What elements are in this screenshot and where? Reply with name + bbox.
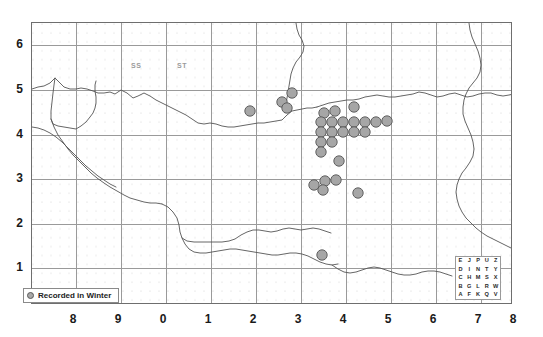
data-point [282, 103, 292, 113]
x-axis-tick-3: 1 [200, 313, 216, 325]
grid-letter: F [465, 291, 474, 299]
grid-letter: J [465, 257, 474, 265]
data-point [316, 117, 326, 127]
data-point [334, 156, 344, 166]
data-point [316, 127, 326, 137]
grid-letter: N [474, 265, 483, 273]
map-plot-area [31, 22, 512, 304]
x-axis-tick-0: 8 [65, 313, 81, 325]
x-axis-tick-10: 8 [505, 313, 521, 325]
x-axis-tick-9: 7 [470, 313, 486, 325]
grid-letter: B [456, 282, 465, 290]
x-axis-tick-5: 3 [290, 313, 306, 325]
grid-letter: H [465, 274, 474, 282]
sheet-label-st: ST [177, 62, 187, 69]
grid-letter: D [456, 265, 465, 273]
y-axis-tick-6: 6 [7, 38, 23, 50]
x-axis-tick-8: 6 [425, 313, 441, 325]
grid-letter: R [482, 282, 491, 290]
data-point [353, 188, 363, 198]
sheet-label-ss: SS [131, 62, 141, 69]
data-point [349, 102, 359, 112]
x-axis-tick-1: 9 [110, 313, 126, 325]
legend-label: Recorded in Winter [38, 291, 111, 300]
data-point [360, 127, 370, 137]
data-point [327, 117, 337, 127]
data-point [371, 117, 381, 127]
y-axis-tick-1: 1 [7, 261, 23, 273]
grid-letter: K [474, 291, 483, 299]
grid-letter-key: E J P U Z D I N T Y C H M S X B G L R W … [455, 256, 501, 300]
grid-letter: W [491, 282, 500, 290]
data-point [330, 106, 340, 116]
grid-letter: X [491, 274, 500, 282]
x-axis-tick-2: 0 [155, 313, 171, 325]
grid-letter: I [465, 265, 474, 273]
data-point [287, 88, 297, 98]
data-point [317, 250, 327, 260]
y-axis-tick-4: 4 [7, 128, 23, 140]
data-point [318, 185, 328, 195]
y-axis-tick-5: 5 [7, 83, 23, 95]
grid-letter: Q [482, 291, 491, 299]
y-axis-tick-3: 3 [7, 172, 23, 184]
grid-letter: A [456, 291, 465, 299]
data-point [316, 147, 326, 157]
data-point [349, 117, 359, 127]
grid-letter: L [474, 282, 483, 290]
grid-letter: V [491, 291, 500, 299]
y-axis-tick-2: 2 [7, 217, 23, 229]
data-point [245, 106, 255, 116]
data-point [331, 175, 341, 185]
data-point [338, 117, 348, 127]
map-legend: Recorded in Winter [23, 288, 119, 303]
grid-letter: G [465, 282, 474, 290]
x-axis-tick-7: 5 [380, 313, 396, 325]
legend-swatch-icon [27, 292, 34, 299]
data-point [349, 127, 359, 137]
data-point [360, 117, 370, 127]
grid-letter: Z [491, 257, 500, 265]
data-point [316, 137, 326, 147]
grid-letter: S [482, 274, 491, 282]
data-point [327, 137, 337, 147]
data-point [338, 127, 348, 137]
data-point [327, 127, 337, 137]
x-axis-tick-6: 4 [335, 313, 351, 325]
x-axis-tick-4: 2 [245, 313, 261, 325]
grid-letter: M [474, 274, 483, 282]
minor-dot-grid [32, 23, 512, 304]
distribution-map-figure: 6 5 4 3 2 1 8 9 0 1 2 3 4 5 6 7 8 [0, 0, 543, 337]
data-point [382, 116, 392, 126]
grid-letter: Y [491, 265, 500, 273]
grid-letter: C [456, 274, 465, 282]
grid-letter: E [456, 257, 465, 265]
grid-letter: U [482, 257, 491, 265]
grid-letter: T [482, 265, 491, 273]
grid-letter: P [474, 257, 483, 265]
